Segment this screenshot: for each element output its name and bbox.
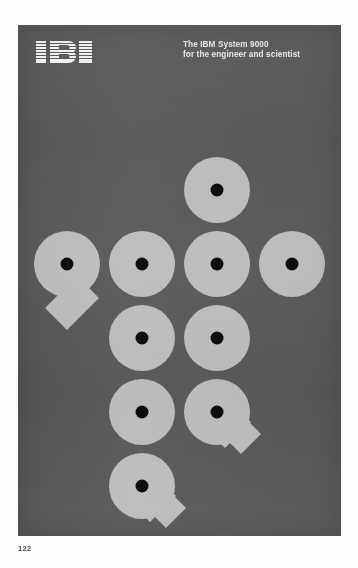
disk-hole <box>211 332 224 345</box>
disk-r3-c2 <box>184 305 250 371</box>
disk-hole <box>136 406 149 419</box>
disk-hole <box>136 480 149 493</box>
disk-hole <box>61 258 74 271</box>
disk-r2-c0 <box>34 231 100 330</box>
poster-title-line-2: for the engineer and scientist <box>183 50 328 60</box>
disk-r2-c1 <box>109 231 175 297</box>
poster-title: The IBM System 9000 for the engineer and… <box>183 40 328 61</box>
disk-artwork <box>18 25 341 536</box>
poster-title-line-1: The IBM System 9000 <box>183 40 328 50</box>
disk-hole <box>286 258 299 271</box>
poster-header: The IBM System 9000 for the engineer and… <box>18 25 341 89</box>
disk-r1-c2 <box>184 157 250 223</box>
page-folio: 122 <box>18 544 31 553</box>
disk-hole <box>211 184 224 197</box>
poster-panel: The IBM System 9000 for the engineer and… <box>18 25 341 536</box>
disk-r2-c3 <box>259 231 325 297</box>
disk-r4-c2 <box>184 379 261 454</box>
disk-r3-c1 <box>109 305 175 371</box>
disk-hole <box>211 406 224 419</box>
disk-hole <box>136 258 149 271</box>
disk-r5-c1 <box>109 453 186 528</box>
disk-hole <box>136 332 149 345</box>
disk-r2-c2 <box>184 231 250 297</box>
ibm-logo-icon <box>36 41 92 63</box>
disk-r4-c1 <box>109 379 175 445</box>
disk-hole <box>211 258 224 271</box>
page-sheet: The IBM System 9000 for the engineer and… <box>0 0 358 568</box>
